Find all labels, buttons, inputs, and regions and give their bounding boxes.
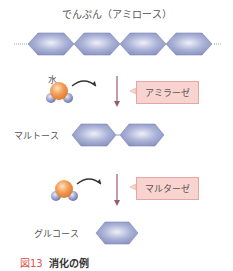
starch-title: でんぷん（アミロース） (0, 6, 233, 21)
product-label-glucose: グルコース (34, 227, 79, 240)
water-molecule-icon (51, 180, 78, 201)
caption-text: 消化の例 (49, 258, 89, 269)
product-label-maltose: マルトース (14, 129, 59, 142)
enzyme-label-maltase: マルターゼ (136, 177, 199, 200)
glucose-unit-hexagon (166, 33, 212, 55)
glucose-unit-hexagon (74, 33, 120, 55)
glucose-unit-hexagon (120, 33, 166, 55)
glucose-molecule (96, 222, 138, 244)
down-arrow-icon (114, 76, 120, 107)
curved-arrow-icon (72, 81, 96, 86)
caption-number: 図13 (20, 258, 43, 269)
down-arrow-icon (114, 174, 120, 206)
enzyme-label-amylase: アミラーゼ (136, 81, 199, 104)
glucose-unit-hexagon (28, 33, 74, 55)
figure-caption: 図13消化の例 (20, 252, 89, 271)
curved-arrow-icon (77, 179, 101, 184)
water-label: 水 (48, 73, 57, 86)
starch-chain (14, 33, 222, 55)
maltose-molecule (72, 124, 164, 146)
